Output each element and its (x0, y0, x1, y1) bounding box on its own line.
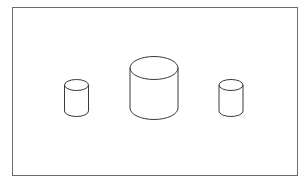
cylinder-body (219, 85, 243, 117)
cylinders-group (65, 57, 244, 120)
cylinder-top (219, 80, 243, 91)
cylinder-top (130, 57, 178, 80)
cylinder-small-left (65, 80, 89, 117)
diagram-frame (13, 8, 298, 176)
cylinder-large-center (130, 57, 178, 120)
cylinder-top (65, 80, 89, 91)
cylinder-body (65, 85, 89, 117)
diagram-canvas (0, 0, 304, 180)
cylinder-small-right (219, 80, 243, 117)
